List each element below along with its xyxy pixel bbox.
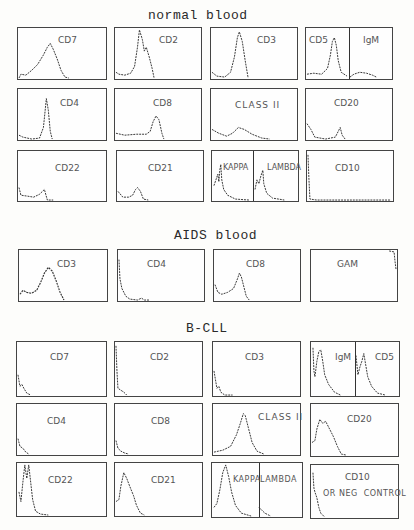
panel-label: CD8 (153, 98, 172, 108)
histogram-normal-cd4: CD4 (17, 88, 107, 141)
panel-label: CD5 (309, 35, 328, 45)
panel-label: CD7 (58, 35, 77, 45)
panel-label: CD22 (48, 475, 73, 485)
section-title-aids-blood: AIDS blood (174, 228, 257, 243)
panel-label: CD3 (257, 35, 276, 45)
panel-label: CD4 (60, 98, 79, 108)
panel-divider (259, 463, 260, 517)
panel-label: CD21 (148, 163, 173, 173)
histogram-bcll-cd20: CD20 (310, 403, 399, 457)
histogram-bcll-cd21: CD21 (114, 462, 203, 517)
section-title-normal-blood: normal blood (148, 8, 248, 23)
histogram-aids-gam: GAM (310, 249, 398, 302)
panel-label: IgM (363, 35, 379, 45)
histogram-normal-cd21: CD21 (116, 150, 204, 202)
histogram-normal-cd7: CD7 (17, 27, 107, 80)
panel-divider (349, 28, 350, 79)
panel-label: OR NEG CONTROL (323, 489, 406, 498)
histogram-bcll-class-ii: CLASS II (212, 403, 301, 456)
panel-label: CD7 (50, 352, 69, 362)
panel-label: CD4 (47, 416, 66, 426)
histogram-bcll-cd8: CD8 (114, 403, 203, 456)
panel-label: KAPPA (233, 475, 261, 484)
histogram-normal-cd2: CD2 (114, 27, 202, 80)
panel-label: CLASS II (235, 100, 280, 110)
histogram-normal-cd10: CD10 (306, 150, 394, 202)
histogram-bcll-cd2: CD2 (114, 341, 203, 397)
panel-label: GAM (337, 259, 358, 269)
histogram-bcll-cd10-neg-control: CD10 OR NEG CONTROL (310, 464, 399, 519)
panel-divider (253, 151, 254, 201)
histogram-aids-cd4: CD4 (117, 249, 205, 302)
histogram-bcll-kappa-lambda: KAPPA LAMBDA (211, 462, 303, 518)
panel-label: LAMBDA (260, 475, 297, 484)
histogram-aids-cd3: CD3 (18, 249, 108, 302)
panel-label: CD20 (347, 414, 372, 424)
panel-label: CD8 (151, 416, 170, 426)
panel-label: IgM (335, 352, 351, 362)
histogram-bcll-igm-cd5: IgM CD5 (310, 341, 400, 397)
histogram-bcll-cd4: CD4 (16, 403, 107, 456)
histogram-normal-kappa-lambda: KAPPA LAMBDA (211, 150, 299, 202)
histogram-bcll-cd3: CD3 (212, 341, 301, 397)
panel-label: CLASS II (258, 412, 303, 422)
histogram-normal-cd22: CD22 (17, 150, 107, 202)
panel-label: CD21 (151, 475, 176, 485)
panel-label: CD10 (335, 163, 360, 173)
panel-label: KAPPA (223, 163, 248, 172)
histogram-normal-cd8: CD8 (114, 88, 202, 141)
panel-label: CD22 (55, 163, 80, 173)
panel-label: CD10 (345, 472, 370, 482)
section-title-b-cll: B-CLL (186, 321, 228, 336)
histogram-aids-cd8: CD8 (213, 249, 301, 302)
histogram-bcll-cd22: CD22 (16, 462, 107, 517)
histogram-normal-cd20: CD20 (305, 88, 393, 141)
panel-label: CD20 (334, 98, 359, 108)
panel-label: CD2 (159, 35, 178, 45)
panel-label: CD8 (246, 259, 265, 269)
panel-label: LAMBDA (267, 163, 301, 172)
histogram-normal-cd3: CD3 (210, 27, 298, 80)
histogram-normal-cd5-igm: CD5 IgM (305, 27, 393, 80)
panel-label: CD3 (245, 352, 264, 362)
panel-label: CD2 (150, 352, 169, 362)
panel-divider (355, 342, 356, 396)
panel-label: CD4 (147, 259, 166, 269)
panel-label: CD3 (57, 259, 76, 269)
panel-label: CD5 (375, 352, 394, 362)
histogram-normal-class-ii: CLASS II (210, 88, 298, 141)
histogram-bcll-cd7: CD7 (16, 341, 107, 397)
